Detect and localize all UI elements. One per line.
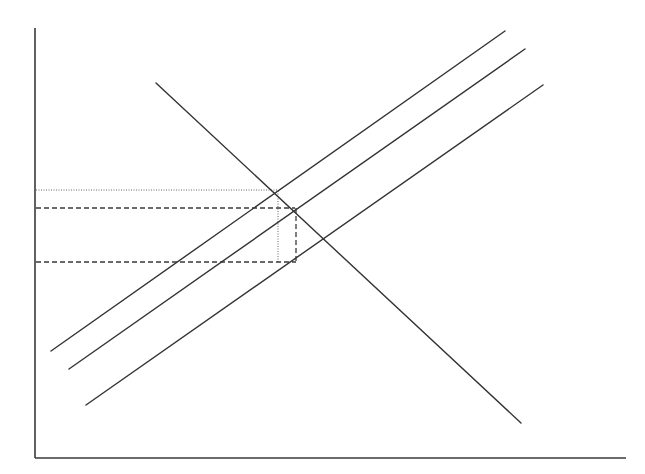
reference-lines-dotted <box>36 190 278 263</box>
supply-curve-3 <box>86 85 543 405</box>
reference-lines-dashed <box>36 208 296 262</box>
axes <box>35 28 626 458</box>
curves <box>51 31 543 423</box>
supply-demand-diagram <box>0 0 645 474</box>
supply-curve-1 <box>51 31 505 351</box>
supply-curve-2 <box>69 49 525 369</box>
demand-curve <box>156 83 521 423</box>
